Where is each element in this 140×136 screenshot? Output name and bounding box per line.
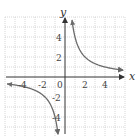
y-tick-label: 2 [56,53,62,63]
y-tick-label: -2 [52,93,61,103]
x-tick-label: -4 [18,80,27,90]
x-axis-label: x [129,70,136,83]
y-axis-label: y [59,6,67,19]
curve-branch-negative [7,84,58,134]
y-tick-label: -4 [52,113,61,123]
y-tick-label: 4 [56,33,62,43]
x-tick-label: -2 [38,80,47,90]
graph-of-reciprocal-function: x y -4 -2 0 2 4 4 2 -2 -4 [0,0,140,136]
x-tick-label: 2 [82,80,88,90]
axes [6,18,124,134]
curve-branch-positive [72,20,123,70]
x-tick-label: 4 [102,80,108,90]
x-tick-label: 0 [57,80,63,90]
